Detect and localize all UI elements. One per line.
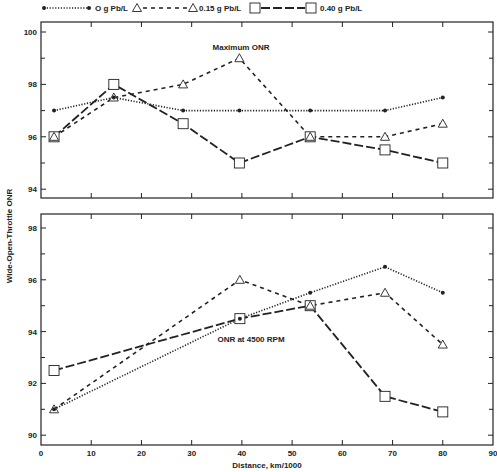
chart-canvas: O g Pb/L0.15 g Pb/L0.40 g Pb/L 949698100…: [0, 0, 497, 472]
legend-label: 0.15 g Pb/L: [199, 4, 241, 13]
x-tick-label: 60: [338, 449, 347, 458]
dot-marker-icon: [181, 109, 185, 113]
plot-frame: [41, 214, 493, 445]
square-marker-icon: [109, 79, 119, 89]
dot-marker-icon: [383, 265, 387, 269]
dot-marker-icon: [308, 109, 312, 113]
x-axis-title: Distance, km/1000: [232, 461, 302, 470]
legend-item: 0.15 g Pb/L: [133, 4, 242, 14]
x-tick-label: 30: [187, 449, 196, 458]
dot-marker-icon: [52, 109, 56, 113]
dot-marker-icon: [112, 96, 116, 100]
square-marker-icon: [250, 3, 260, 13]
y-tick-label: 90: [28, 431, 37, 440]
panel-annotation: Maximum ONR: [213, 43, 270, 52]
square-marker-icon: [438, 158, 448, 168]
legend-label: 0.40 g Pb/L: [320, 4, 362, 13]
triangle-marker-icon: [133, 4, 142, 12]
triangle-marker-icon: [235, 275, 244, 283]
dot-marker-icon: [87, 6, 91, 10]
lower-panel-onr-4500-rpm: 01020304050607080909092949698ONR at 4500…: [28, 214, 497, 458]
y-tick-label: 94: [28, 328, 37, 337]
x-tick-label: 10: [87, 449, 96, 458]
y-tick-label: 92: [28, 379, 37, 388]
upper-panel-maximum-onr: 949698100Maximum ONR: [24, 22, 493, 198]
legend-item: O g Pb/L: [42, 4, 128, 13]
x-tick-label: 70: [388, 449, 397, 458]
x-tick-label: 20: [137, 449, 146, 458]
x-tick-label: 80: [438, 449, 447, 458]
dot-marker-icon: [383, 109, 387, 113]
chart-figure: O g Pb/L0.15 g Pb/L0.40 g Pb/L 949698100…: [0, 0, 497, 472]
dot-marker-icon: [42, 6, 46, 10]
triangle-marker-icon: [179, 80, 188, 88]
x-tick-label: 0: [39, 449, 44, 458]
dot-marker-icon: [237, 109, 241, 113]
square-marker-icon: [438, 407, 448, 417]
square-marker-icon: [178, 119, 188, 129]
legend-item: 0.40 g Pb/L: [250, 3, 362, 13]
square-marker-icon: [380, 145, 390, 155]
triangle-marker-icon: [189, 4, 198, 12]
y-tick-label: 96: [28, 276, 37, 285]
x-tick-label: 90: [489, 449, 497, 458]
square-marker-icon: [306, 3, 316, 13]
panel-annotation: ONR at 4500 RPM: [217, 335, 284, 344]
x-tick-label: 40: [237, 449, 246, 458]
y-tick-label: 98: [28, 224, 37, 233]
triangle-marker-icon: [235, 54, 244, 62]
y-tick-label: 96: [28, 133, 37, 142]
x-tick-label: 50: [288, 449, 297, 458]
triangle-marker-icon: [381, 288, 390, 296]
y-tick-label: 100: [24, 28, 38, 37]
square-marker-icon: [49, 365, 59, 375]
legend: O g Pb/L0.15 g Pb/L0.40 g Pb/L: [42, 3, 362, 13]
y-tick-label: 94: [28, 185, 37, 194]
y-tick-label: 98: [28, 80, 37, 89]
dot-marker-icon: [52, 407, 56, 411]
dot-marker-icon: [441, 96, 445, 100]
series-line-triangle: [54, 280, 443, 410]
y-axis-title: Wide-Open-Throttle ONR: [5, 188, 14, 283]
dot-marker-icon: [441, 291, 445, 295]
square-marker-icon: [380, 391, 390, 401]
dot-marker-icon: [308, 291, 312, 295]
dot-marker-icon: [238, 317, 242, 321]
legend-label: O g Pb/L: [95, 4, 128, 13]
square-marker-icon: [234, 158, 244, 168]
triangle-marker-icon: [438, 119, 447, 127]
